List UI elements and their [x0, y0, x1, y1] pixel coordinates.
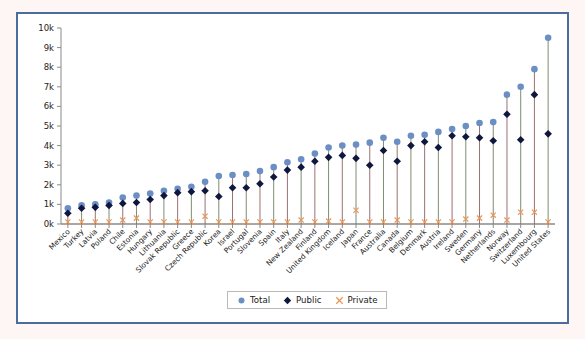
scatter-chart: 0k1k2k3k4k5k6k7k8k9k10kMexicoTurkeyLatvi…	[18, 14, 567, 322]
public-point	[229, 184, 237, 192]
legend-label-public: Public	[296, 295, 321, 305]
public-point	[64, 209, 72, 217]
legend-item-public[interactable]: Public	[283, 295, 321, 305]
chart-page: 0k1k2k3k4k5k6k7k8k9k10kMexicoTurkeyLatvi…	[0, 0, 585, 339]
public-point	[242, 184, 250, 192]
public-point	[544, 130, 552, 138]
total-point	[243, 171, 250, 178]
public-point	[476, 134, 484, 142]
y-tick-label: 5k	[44, 121, 54, 131]
total-point	[421, 132, 428, 139]
total-point	[312, 150, 319, 157]
circle-marker-icon	[237, 296, 246, 305]
public-point	[311, 157, 319, 165]
public-point	[339, 152, 347, 160]
total-point	[339, 142, 346, 149]
total-point	[353, 141, 360, 148]
total-point	[380, 134, 387, 141]
total-point	[133, 192, 140, 199]
public-point	[462, 133, 470, 141]
y-tick-label: 4k	[44, 141, 54, 151]
y-tick-label: 10k	[38, 23, 54, 33]
total-point	[229, 172, 236, 179]
total-point	[284, 159, 291, 166]
total-point	[298, 156, 305, 163]
public-point	[119, 200, 127, 208]
public-point	[256, 180, 264, 188]
public-point	[133, 199, 141, 207]
total-point	[270, 164, 277, 171]
total-point	[216, 173, 223, 180]
legend-item-private[interactable]: Private	[335, 295, 378, 305]
figure-frame: 0k1k2k3k4k5k6k7k8k9k10kMexicoTurkeyLatvi…	[16, 12, 569, 324]
public-point	[407, 142, 415, 150]
public-point	[380, 147, 388, 155]
y-tick-label: 0k	[44, 219, 54, 229]
total-point	[463, 123, 470, 130]
public-point	[146, 196, 154, 204]
total-point	[531, 66, 538, 73]
total-point	[394, 138, 401, 145]
total-point	[366, 139, 373, 146]
public-point	[188, 188, 196, 196]
total-point	[408, 133, 415, 140]
chart-legend: Total Public Private	[227, 291, 387, 309]
plot-area: 0k1k2k3k4k5k6k7k8k9k10kMexicoTurkeyLatvi…	[18, 14, 567, 322]
total-point	[202, 179, 209, 186]
public-point	[421, 138, 429, 146]
public-point	[531, 91, 539, 99]
public-point	[297, 163, 305, 171]
y-tick-label: 3k	[44, 160, 54, 170]
total-point	[325, 144, 332, 151]
total-point	[504, 91, 511, 98]
public-point	[448, 132, 456, 140]
total-point	[476, 120, 483, 127]
public-point	[393, 157, 401, 165]
public-point	[435, 144, 443, 152]
public-point	[270, 173, 278, 181]
public-point	[284, 166, 292, 174]
total-point	[545, 35, 552, 42]
y-tick-label: 1k	[44, 199, 54, 209]
legend-item-total[interactable]: Total	[237, 295, 270, 305]
public-point	[489, 137, 497, 145]
x-marker-icon	[335, 296, 344, 305]
legend-label-private: Private	[348, 295, 378, 305]
y-tick-label: 2k	[44, 180, 54, 190]
public-point	[517, 136, 525, 144]
y-tick-label: 8k	[44, 62, 54, 72]
total-point	[435, 129, 442, 136]
legend-label-total: Total	[250, 295, 270, 305]
diamond-marker-icon	[283, 296, 292, 305]
total-point	[257, 168, 264, 175]
public-point	[201, 187, 209, 195]
public-point	[215, 193, 223, 201]
public-point	[160, 192, 168, 200]
public-point	[366, 161, 374, 169]
public-point	[352, 155, 360, 163]
y-tick-label: 6k	[44, 101, 54, 111]
total-point	[517, 84, 524, 91]
total-point	[449, 126, 456, 133]
total-point	[490, 119, 497, 126]
y-tick-label: 9k	[44, 43, 54, 53]
y-tick-label: 7k	[44, 82, 54, 92]
public-point	[325, 154, 333, 162]
public-point	[503, 110, 511, 118]
